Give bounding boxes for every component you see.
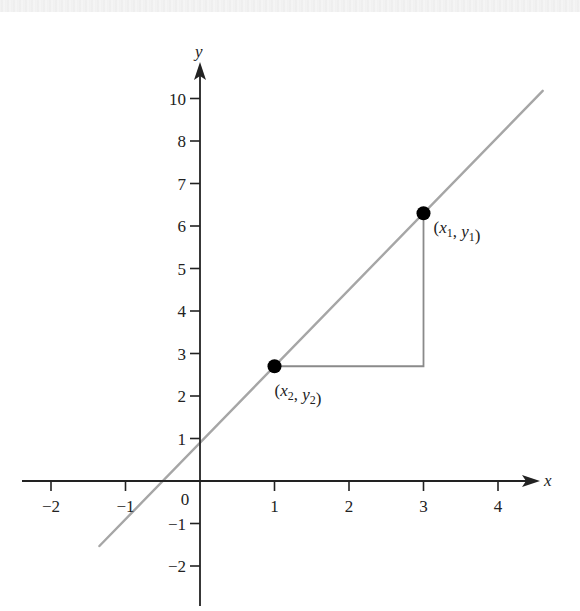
y-tick-label: 7 [178,175,187,194]
y-tick-label: −2 [168,557,186,576]
coordinate-plane-chart: xy −2−11234−2−112345678100 (x1, y1)(x2, … [0,0,580,611]
y-tick-label: 5 [178,260,187,279]
x-tick-label: −1 [116,497,134,516]
axes: xy [22,42,552,606]
x-tick-label: 4 [494,497,503,516]
point-1-label: (x1, y1) [434,218,481,245]
x-tick-label: 3 [419,497,428,516]
x-tick-label: 2 [345,497,354,516]
y-tick-label: 1 [178,430,187,449]
point-1-marker [417,206,431,220]
trend-line [99,91,542,546]
y-tick-label: 4 [178,302,187,321]
point-2-marker [268,359,282,373]
y-tick-label: 6 [178,217,187,236]
y-tick-label: 10 [169,90,186,109]
x-tick-label: −2 [42,497,60,516]
trend-line-path [99,91,542,546]
ticks: −2−11234−2−112345678100 [42,90,503,577]
data-points: (x1, y1)(x2, y2) [268,206,481,408]
y-tick-label: 8 [178,132,187,151]
point-2-label: (x2, y2) [275,381,322,408]
y-axis-label: y [193,42,203,61]
x-tick-label: 1 [270,497,279,516]
y-tick-label: 2 [178,387,187,406]
origin-label: 0 [181,490,190,509]
y-tick-label: −1 [168,515,186,534]
y-tick-label: 3 [178,345,187,364]
x-axis-label: x [543,471,552,490]
